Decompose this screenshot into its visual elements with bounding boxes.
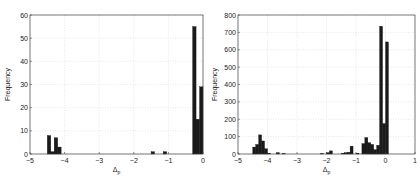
y-tick-label: 800 (224, 12, 236, 19)
x-tick-label: −3 (293, 157, 301, 164)
histogram-bar (193, 27, 196, 154)
histogram-bar (196, 119, 199, 154)
y-tick-label: 30 (20, 81, 28, 88)
right-histogram-panel: −5−4−3−2−1010100200300400500600700800ΔpF… (210, 0, 420, 178)
x-tick-label: −5 (26, 157, 34, 164)
y-tick-label: 600 (224, 46, 236, 53)
left-histogram: −5−4−3−2−100102030405060ΔpFrequency (0, 0, 210, 178)
y-axis-label: Frequency (4, 67, 12, 101)
histogram-bar (253, 147, 256, 154)
y-tick-label: 500 (224, 64, 236, 71)
histogram-bar (368, 143, 371, 154)
y-axis-label: Frequency (211, 67, 219, 101)
histogram-bar (350, 146, 353, 154)
y-tick-label: 200 (224, 116, 236, 123)
y-tick-label: 10 (20, 127, 28, 134)
histogram-bar (265, 149, 268, 154)
x-tick-label: −4 (61, 157, 69, 164)
histogram-bar (54, 138, 57, 154)
x-tick-label: −2 (130, 157, 138, 164)
histogram-bar (259, 135, 262, 154)
y-tick-label: 60 (20, 12, 28, 19)
x-axis-label: Δp (323, 166, 331, 175)
histogram-bar (47, 135, 50, 154)
left-histogram-panel: −5−4−3−2−100102030405060ΔpFrequency (0, 0, 210, 178)
x-tick-label: −1 (164, 157, 172, 164)
y-tick-label: 100 (224, 133, 236, 140)
x-tick-label: 0 (384, 157, 388, 164)
y-tick-label: 300 (224, 98, 236, 105)
y-tick-label: 400 (224, 81, 236, 88)
histogram-bar (329, 151, 332, 154)
histogram-bar (386, 42, 389, 154)
histogram-bar (371, 144, 374, 154)
y-tick-label: 0 (24, 151, 28, 158)
histogram-bar (374, 150, 377, 154)
histogram-bar (365, 137, 368, 154)
histogram-bar (262, 141, 265, 154)
y-tick-label: 700 (224, 29, 236, 36)
x-tick-label: −3 (95, 157, 103, 164)
histogram-bar (58, 147, 61, 154)
x-tick-label: 1 (413, 157, 417, 164)
x-tick-label: 0 (201, 157, 205, 164)
y-tick-label: 40 (20, 58, 28, 65)
y-tick-label: 0 (232, 151, 236, 158)
x-tick-label: −4 (264, 157, 272, 164)
x-axis-label: Δp (113, 166, 121, 175)
histogram-bar (200, 87, 203, 154)
histogram-bar (362, 144, 365, 154)
histogram-bar (380, 26, 383, 154)
x-tick-label: −1 (352, 157, 360, 164)
histogram-bar (383, 124, 386, 154)
histogram-bar (377, 145, 380, 154)
x-tick-label: −5 (234, 157, 242, 164)
y-tick-label: 20 (20, 104, 28, 111)
right-histogram: −5−4−3−2−1010100200300400500600700800ΔpF… (210, 0, 420, 178)
histogram-bar (256, 144, 259, 154)
y-tick-label: 50 (20, 35, 28, 42)
x-tick-label: −2 (323, 157, 331, 164)
